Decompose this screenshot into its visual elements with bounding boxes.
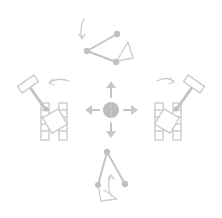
arrow-up-icon (106, 81, 116, 97)
top-linkage-arm-icon (79, 19, 133, 65)
diagram-canvas (0, 0, 222, 218)
bottom-linkage-arm-icon (95, 149, 128, 201)
top-rotation-arrow-icon (81, 19, 84, 38)
arrow-right-icon (124, 105, 138, 115)
right-tracked-robot-arm-icon (155, 75, 205, 140)
arrow-down-icon (106, 123, 116, 138)
arrow-left-icon (85, 105, 99, 115)
left-tracked-robot-arm-icon (18, 75, 69, 140)
move-four-direction-icon (85, 81, 138, 138)
